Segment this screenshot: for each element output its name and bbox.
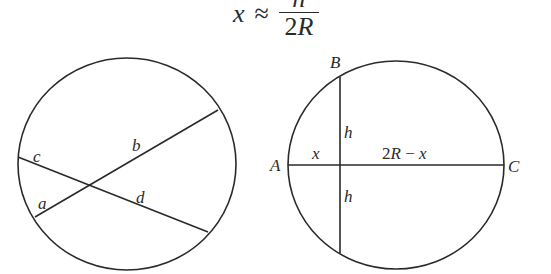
label-d: d [136, 188, 145, 207]
label-A: A [269, 156, 281, 175]
label-2r-minus-x: 2R − x [382, 144, 427, 163]
label-h-lower: h [344, 187, 353, 206]
label-B: B [330, 53, 341, 72]
diameter-chord-figure [288, 61, 504, 269]
chord-cd [18, 157, 208, 232]
label-b: b [132, 136, 141, 155]
label-c: c [33, 147, 41, 166]
label-a: a [38, 194, 47, 213]
label-x: x [311, 144, 320, 163]
label-C: C [508, 157, 520, 176]
label-h-upper: h [344, 123, 353, 142]
intersecting-chords-figure [18, 58, 236, 270]
geometry-figures: c a b d B A C x 2R − x h h [0, 0, 551, 274]
chord-ab [35, 110, 218, 217]
